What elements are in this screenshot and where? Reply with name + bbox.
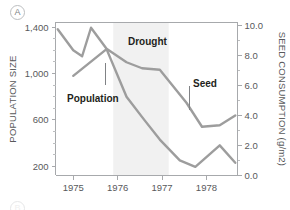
chart-canvas: 1,4001,000600200 10.08.06.04.02.00.0 197… [0, 0, 290, 210]
y-axis-right-tick-label: 2.0 [245, 140, 258, 151]
annotation-label-population: Population [67, 93, 119, 104]
x-axis-tick-label: 1978 [196, 182, 217, 193]
y-axis-left-tick-label: 200 [33, 161, 49, 172]
annotation-population: Population [67, 63, 119, 104]
y-axis-left-title: POPULATION SIZE [7, 55, 18, 142]
y-axis-right-tick-label: 4.0 [245, 110, 258, 121]
figure-panel-a: A B 1,4001,000600200 10.08.06.04.02.00.0… [0, 0, 290, 210]
y-axis-left-ticks: 1,4001,000600200 [25, 22, 56, 172]
y-axis-right-tick-label: 10.0 [245, 20, 264, 31]
annotation-label-seed: Seed [193, 78, 217, 89]
y-axis-right-title: SEED CONSUMPTION (g/m2) [277, 32, 288, 166]
x-axis-tick-label: 1977 [151, 182, 172, 193]
y-axis-right-ticks: 10.08.06.04.02.00.0 [238, 20, 264, 181]
y-axis-left-tick-label: 600 [33, 114, 49, 125]
y-axis-right-tick-label: 0.0 [245, 170, 258, 181]
annotation-seed: Seed [190, 78, 217, 110]
y-axis-left-tick-label: 1,400 [25, 22, 49, 33]
annotation-label-drought: Drought [128, 36, 168, 47]
annotation-drought: Drought [128, 36, 168, 47]
y-axis-left-tick-label: 1,000 [25, 68, 49, 79]
x-axis-ticks: 1975197619771978 [63, 176, 217, 193]
x-axis-tick-label: 1975 [63, 182, 84, 193]
y-axis-right-tick-label: 6.0 [245, 80, 258, 91]
x-axis-tick-label: 1976 [107, 182, 128, 193]
y-axis-right-tick-label: 8.0 [245, 50, 258, 61]
